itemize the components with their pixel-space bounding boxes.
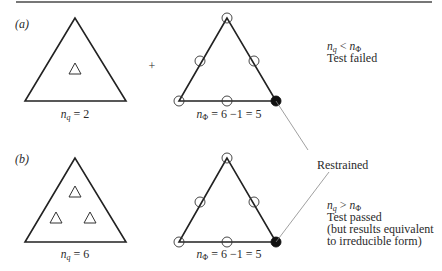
caption-nphi-b: nΦ = 6 −1 = 5	[197, 247, 262, 262]
result-a: Test failed	[327, 51, 377, 65]
interior-node-icon	[69, 186, 81, 197]
interior-node-icon	[69, 63, 81, 74]
interior-node-icon	[84, 212, 96, 223]
result-b-line-3: to irreducible form)	[327, 234, 422, 248]
element-triangle-b	[25, 158, 126, 242]
caption-nq-b: nq = 6	[61, 247, 90, 262]
panel-a: (a) nq = 2 + nΦ = 6 −1 = 5 nq < nΦ Test …	[15, 13, 377, 122]
figure-canvas: (a) nq = 2 + nΦ = 6 −1 = 5 nq < nΦ Test …	[0, 0, 442, 271]
panel-b-label: (b)	[15, 152, 29, 166]
boundary-triangle-b	[179, 158, 276, 242]
caption-nq-a: nq = 2	[61, 107, 90, 122]
leader-line-a	[276, 101, 308, 150]
panel-a-label: (a)	[15, 17, 29, 31]
restrained-label: Restrained	[317, 158, 368, 172]
boundary-triangle-a	[179, 18, 276, 101]
panel-b: (b) nq = 6 nΦ = 6 −1 = 5 nq > nΦ Test pa…	[15, 152, 434, 262]
leader-line-b	[276, 172, 329, 242]
caption-nphi-a: nΦ = 6 −1 = 5	[197, 107, 262, 122]
figure-svg: (a) nq = 2 + nΦ = 6 −1 = 5 nq < nΦ Test …	[0, 0, 442, 271]
interior-node-icon	[50, 212, 62, 223]
plus-sign: +	[149, 59, 156, 73]
element-triangle-a	[25, 18, 126, 101]
